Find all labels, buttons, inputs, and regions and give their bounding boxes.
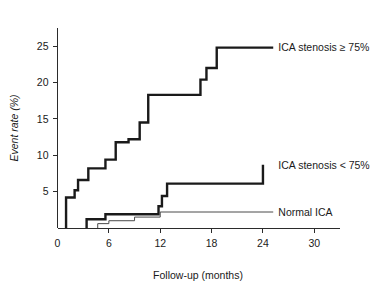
chart-series-labels: ICA stenosis ≥ 75%ICA stenosis < 75%Norm… <box>278 41 369 217</box>
x-tick-label: 6 <box>106 237 112 249</box>
x-tick-label: 18 <box>206 237 218 249</box>
y-tick-label: 15 <box>37 113 49 125</box>
y-axis-title: Event rate (%) <box>8 94 20 161</box>
x-axis-title: Follow-up (months) <box>153 269 243 281</box>
series-line-1 <box>87 165 263 228</box>
x-axis-ticks: 0612182430 <box>55 228 321 249</box>
series-label-0: ICA stenosis ≥ 75% <box>278 41 369 53</box>
y-tick-label: 25 <box>37 40 49 52</box>
chart-series-group <box>66 48 273 228</box>
series-line-0 <box>66 48 273 228</box>
y-axis-ticks: 510152025 <box>37 40 58 197</box>
series-label-2: Normal ICA <box>278 206 332 218</box>
chart-figure: 510152025 0612182430 ICA stenosis ≥ 75%I… <box>0 0 374 293</box>
x-tick-label: 0 <box>55 237 61 249</box>
x-tick-label: 12 <box>154 237 166 249</box>
x-tick-label: 30 <box>308 237 320 249</box>
chart-axes <box>58 28 341 228</box>
event-rate-step-chart: 510152025 0612182430 ICA stenosis ≥ 75%I… <box>0 0 374 293</box>
y-tick-label: 5 <box>43 185 49 197</box>
x-tick-label: 24 <box>257 237 269 249</box>
y-tick-label: 10 <box>37 149 49 161</box>
series-label-1: ICA stenosis < 75% <box>278 159 369 171</box>
y-tick-label: 20 <box>37 76 49 88</box>
